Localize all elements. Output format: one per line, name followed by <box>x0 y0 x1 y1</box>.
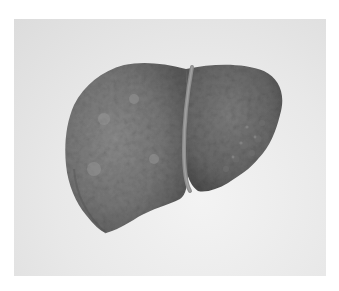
left-lobe <box>65 63 188 233</box>
caption <box>30 281 310 287</box>
photo-frame <box>14 19 326 276</box>
liver-specimen-image <box>14 19 326 276</box>
right-lobe <box>186 65 282 192</box>
